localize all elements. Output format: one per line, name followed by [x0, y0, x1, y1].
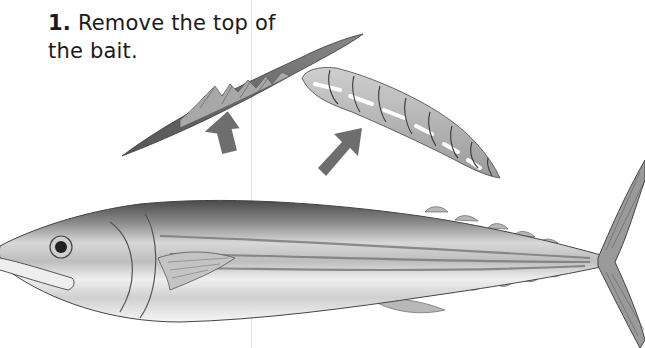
arrow-up-right-icon — [318, 128, 362, 176]
bait-illustration — [0, 0, 645, 348]
bait-instruction-page: 1. Remove the top of the bait. — [0, 0, 645, 348]
whole-fish — [0, 160, 645, 348]
